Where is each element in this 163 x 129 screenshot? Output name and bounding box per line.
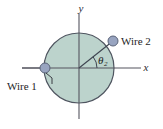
y-axis-label: y [78, 2, 84, 14]
angle-theta-subscript: 2 [104, 60, 108, 68]
wire-1-dot[interactable] [40, 63, 50, 73]
wire-2-dot[interactable] [108, 36, 118, 46]
x-axis-label: x [143, 61, 149, 73]
diagram-canvas: y x Wire 1 Wire 2 θ 2 [0, 0, 163, 129]
wire-1-label: Wire 1 [7, 80, 37, 92]
physics-figure: y x Wire 1 Wire 2 θ 2 [0, 0, 163, 129]
wire-2-label: Wire 2 [121, 35, 151, 47]
